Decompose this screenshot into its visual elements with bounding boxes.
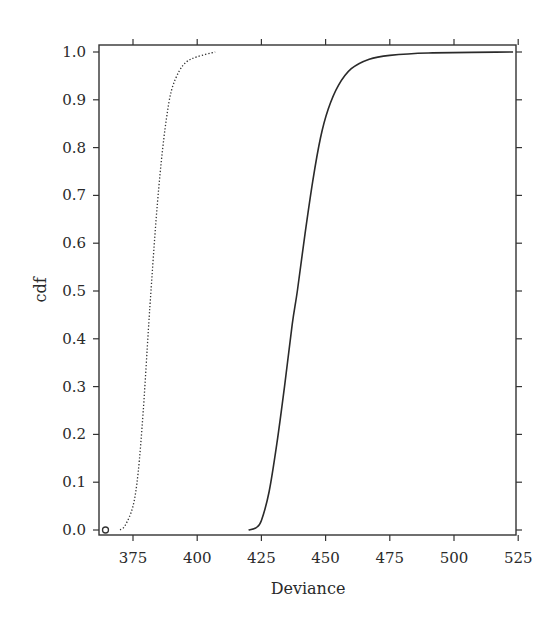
annotation-layer bbox=[103, 527, 109, 533]
x-tick-label: 525 bbox=[504, 549, 533, 567]
y-tick-label: 0.8 bbox=[62, 139, 86, 157]
plot-frame bbox=[99, 45, 516, 535]
y-tick-label: 0.6 bbox=[62, 234, 86, 252]
y-axis-title: cdf bbox=[31, 276, 50, 302]
x-tick-label: 425 bbox=[247, 549, 276, 567]
y-tick-label: 0.4 bbox=[62, 330, 86, 348]
y-tick-label: 0.2 bbox=[62, 425, 86, 443]
y-tick-label: 0.7 bbox=[62, 186, 86, 204]
y-tick-label: 0.3 bbox=[62, 378, 86, 396]
cdf-chart: 375400425450475500525 0.00.10.20.30.40.5… bbox=[0, 0, 556, 630]
y-tick-label: 0.9 bbox=[62, 91, 86, 109]
y-tick-label: 0.1 bbox=[62, 473, 86, 491]
y-tick-label: 1.0 bbox=[62, 43, 86, 61]
x-tick-label: 475 bbox=[375, 549, 404, 567]
y-tick-label: 0.5 bbox=[62, 282, 86, 300]
x-tick-label: 375 bbox=[119, 549, 148, 567]
y-tick-label: 0.0 bbox=[62, 521, 86, 539]
x-tick-label: 500 bbox=[440, 549, 469, 567]
y-axis: 0.00.10.20.30.40.50.60.70.80.91.0 bbox=[62, 43, 522, 539]
solid-cdf-line bbox=[249, 52, 514, 530]
x-tick-label: 400 bbox=[183, 549, 212, 567]
series-layer bbox=[120, 52, 513, 530]
x-axis-title: Deviance bbox=[271, 579, 346, 598]
open-circle-marker bbox=[103, 527, 109, 533]
x-tick-label: 450 bbox=[311, 549, 340, 567]
dotted-cdf-line bbox=[120, 52, 215, 530]
